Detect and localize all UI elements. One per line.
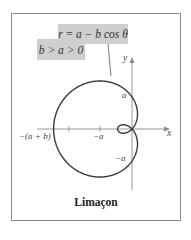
y-axis-arrow-icon: [130, 57, 135, 63]
tick-label-neg-a-y: −a: [115, 153, 126, 163]
tick-label-neg-a-plus-b: −(a + b): [19, 131, 51, 141]
y-axis-label: y: [123, 53, 127, 63]
callout-pointer: [108, 44, 111, 76]
figure-title: Limaçon: [11, 196, 181, 208]
tick-label-neg-a-x: −a: [93, 131, 104, 141]
tick-label-a-y: a: [122, 90, 127, 100]
x-axis-label: x: [167, 128, 171, 138]
condition-callout: b > a > 0: [37, 39, 85, 60]
